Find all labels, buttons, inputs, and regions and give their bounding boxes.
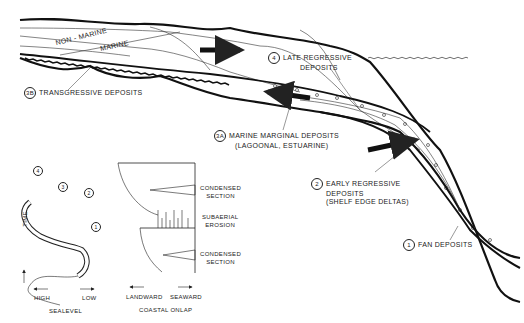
subaerial-erosion-label: SUBAERIALEROSION bbox=[202, 213, 238, 229]
time-axis-label: TIME bbox=[21, 211, 29, 227]
sealevel-high-label: HIGH bbox=[34, 294, 50, 302]
unit-3a-label: 3AMARINE MARGINAL DEPOSITS (LAGOONAL, ES… bbox=[214, 130, 339, 150]
sealevel-low-label: LOW bbox=[82, 294, 97, 302]
sealevel-marker-4: 4 bbox=[33, 166, 43, 176]
transgressive-arrow bbox=[268, 92, 310, 98]
coastal-onlap-title: COASTAL ONLAP bbox=[139, 306, 192, 314]
unit-4-label: 4LATE REGRESSIVE DEPOSITS bbox=[268, 52, 352, 72]
unit-3b-marker: 3B bbox=[24, 87, 36, 99]
onlap-landward-label: LANDWARD bbox=[126, 293, 163, 301]
sea-level-line bbox=[368, 57, 468, 59]
sealevel-marker-3: 3 bbox=[58, 182, 68, 192]
unit-2-label: 2EARLY REGRESSIVE DEPOSITS (SHELF EDGE D… bbox=[311, 178, 409, 206]
onlap-seaward-label: SEAWARD bbox=[170, 293, 202, 301]
sealevel-title: SEALEVEL bbox=[49, 307, 82, 315]
unit-1-label: 1FAN DEPOSITS bbox=[403, 239, 473, 251]
unit-4-marker: 4 bbox=[268, 52, 280, 64]
condensed-section-lower-label: CONDENSEDSECTION bbox=[200, 250, 241, 266]
unit-3a-marker: 3A bbox=[214, 130, 226, 142]
sealevel-marker-2: 2 bbox=[84, 188, 94, 198]
transgressive-deposits-band bbox=[25, 58, 229, 85]
condensed-section-upper-label: CONDENSEDSECTION bbox=[200, 184, 241, 200]
sea-level-curve-inset bbox=[24, 202, 94, 305]
stratigraphy-diagram bbox=[0, 0, 524, 323]
sealevel-marker-1: 1 bbox=[91, 222, 101, 232]
coastal-onlap-inset bbox=[118, 163, 195, 287]
unit-1-marker: 1 bbox=[403, 239, 415, 251]
unit-2-marker: 2 bbox=[311, 178, 323, 190]
unit-3b-label: 3BTRANSGRESSIVE DEPOSITS bbox=[24, 87, 142, 99]
